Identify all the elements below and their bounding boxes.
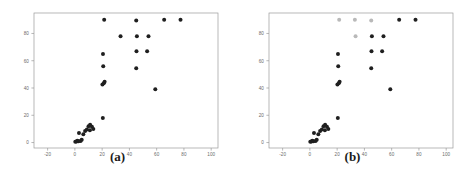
axes-frame xyxy=(269,13,453,148)
data-point xyxy=(162,18,166,22)
data-point xyxy=(369,49,373,53)
data-point xyxy=(135,34,139,38)
scatter-figure: -20020406080100020406080(a)-200204060801… xyxy=(0,0,470,175)
series-observations xyxy=(73,18,182,144)
data-point xyxy=(91,127,95,131)
data-point xyxy=(370,34,374,38)
data-point xyxy=(179,18,183,22)
data-point xyxy=(119,34,123,38)
data-point xyxy=(323,128,327,132)
y-axis-tick-label: 20 xyxy=(24,113,30,118)
data-point xyxy=(316,132,320,136)
data-point xyxy=(369,66,373,70)
y-axis-tick-label: 60 xyxy=(24,59,30,64)
y-axis-tick-label: 20 xyxy=(259,113,265,118)
y-axis-tick-label: 80 xyxy=(24,31,30,36)
data-point xyxy=(101,64,105,68)
data-point xyxy=(336,116,340,120)
scatter-panel-b: -20020406080100020406080(b) xyxy=(235,0,470,175)
data-point xyxy=(336,64,340,68)
panel-caption: (a) xyxy=(0,150,235,164)
data-point xyxy=(369,19,373,23)
data-point xyxy=(380,49,384,53)
data-point xyxy=(337,18,341,22)
y-axis-tick-label: 0 xyxy=(261,140,264,145)
y-axis-tick-label: 60 xyxy=(259,59,265,64)
data-point xyxy=(397,18,401,22)
data-point xyxy=(381,34,385,38)
data-point xyxy=(80,138,84,142)
data-point xyxy=(81,132,85,136)
data-point xyxy=(312,131,316,135)
panel-caption: (b) xyxy=(235,150,470,164)
data-point xyxy=(146,34,150,38)
data-point xyxy=(388,87,392,91)
series-observations-dark xyxy=(308,18,417,144)
data-point xyxy=(101,52,105,56)
y-axis-tick-label: 40 xyxy=(24,86,30,91)
y-axis-tick-label: 0 xyxy=(26,140,29,145)
data-point xyxy=(134,19,138,23)
data-point xyxy=(134,49,138,53)
data-point xyxy=(103,80,107,84)
data-point xyxy=(101,116,105,120)
data-point xyxy=(354,34,358,38)
data-point xyxy=(88,128,92,132)
data-point xyxy=(315,138,319,142)
scatter-panel-a: -20020406080100020406080(a) xyxy=(0,0,235,175)
axes-frame xyxy=(34,13,218,148)
data-point xyxy=(134,66,138,70)
data-point xyxy=(353,18,357,22)
data-point xyxy=(326,127,330,131)
data-point xyxy=(153,87,157,91)
data-point xyxy=(338,80,342,84)
data-point xyxy=(145,49,149,53)
y-axis-tick-label: 80 xyxy=(259,31,265,36)
data-point xyxy=(336,52,340,56)
data-point xyxy=(102,18,106,22)
series-observations-faded xyxy=(337,18,373,38)
data-point xyxy=(77,131,81,135)
data-point xyxy=(414,18,418,22)
y-axis-tick-label: 40 xyxy=(259,86,265,91)
